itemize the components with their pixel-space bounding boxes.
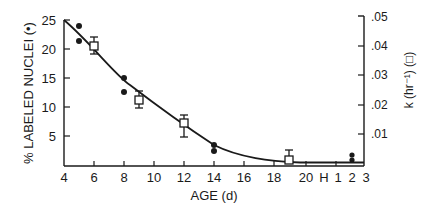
x-axis-label: AGE (d)	[191, 188, 238, 203]
left-ticks	[64, 20, 70, 136]
x-tick: 10	[147, 170, 161, 185]
x-tick: 18	[267, 170, 281, 185]
nuclei-point	[76, 23, 82, 29]
y2-tick: .03	[371, 68, 388, 82]
y2-tick: .01	[371, 127, 388, 141]
fitted-curve	[64, 20, 364, 163]
nuclei-point	[211, 148, 217, 154]
nuclei-point	[76, 38, 82, 44]
x-tick: 20	[299, 170, 313, 185]
x-tick: 1	[334, 170, 341, 185]
nuclei-point	[349, 157, 354, 162]
left-tick-labels: 25 20 15 10 5	[42, 13, 56, 144]
x-tick-labels: 4 6 8 10 12 14 16 18 20 H 1 2 3	[60, 170, 369, 185]
error-bars	[90, 37, 293, 162]
chart: 25 20 15 10 5 .05 .04 .03 .02 .01 4 6 8 …	[0, 0, 436, 213]
x-tick: 3	[362, 170, 369, 185]
y2-axis-label: k (hr⁻¹) (□)	[402, 52, 416, 109]
y-tick: 15	[42, 71, 56, 86]
x-tick: 16	[237, 170, 251, 185]
x-tick: 2	[348, 170, 355, 185]
nuclei-point	[211, 142, 217, 148]
y-tick: 20	[42, 42, 56, 57]
k-series	[90, 42, 293, 164]
right-ticks	[358, 46, 364, 134]
right-tick-labels: .05 .04 .03 .02 .01	[371, 10, 388, 141]
labeled-nuclei-series	[76, 23, 355, 163]
nuclei-point	[121, 75, 127, 81]
x-tick: 12	[177, 170, 191, 185]
y-tick: 5	[49, 129, 56, 144]
k-point	[285, 156, 293, 164]
nuclei-point	[349, 152, 354, 157]
x-tick: 14	[207, 170, 221, 185]
nuclei-point	[121, 89, 127, 95]
y2-tick: .04	[371, 39, 388, 53]
x-tick: 4	[60, 170, 67, 185]
y-tick: 25	[42, 13, 56, 28]
y-tick: 10	[42, 100, 56, 115]
y2-tick: .02	[371, 98, 388, 112]
k-point	[135, 96, 143, 104]
k-point	[180, 119, 188, 127]
x-tick: 6	[90, 170, 97, 185]
x-tick: H	[319, 170, 328, 185]
y-axis-label: % LABELED NUCLEI (•)	[21, 22, 36, 164]
k-point	[90, 42, 98, 50]
y2-tick: .05	[371, 10, 388, 24]
x-tick: 8	[120, 170, 127, 185]
